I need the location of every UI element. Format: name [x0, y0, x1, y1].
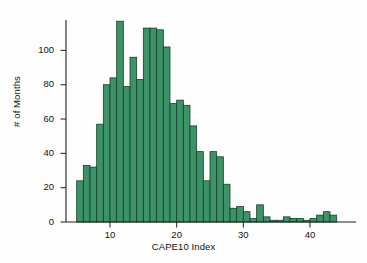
- y-tick-label: 100: [28, 44, 54, 55]
- histogram-bar: [123, 86, 130, 222]
- y-tick-label: 0: [28, 216, 54, 227]
- y-tick-label: 20: [28, 181, 54, 192]
- x-tick-label: 20: [162, 229, 192, 240]
- histogram-bar: [243, 212, 250, 222]
- y-tick-label: 40: [28, 147, 54, 158]
- histogram-bar: [170, 104, 177, 222]
- histogram-bar: [150, 28, 157, 222]
- plot-area: [0, 0, 367, 263]
- histogram-bar: [103, 85, 110, 222]
- histogram-bar: [143, 28, 150, 222]
- histogram-bar: [117, 21, 124, 222]
- histogram-bar: [97, 124, 104, 222]
- histogram-bar: [217, 157, 224, 222]
- histogram-bar: [317, 215, 324, 222]
- histogram-bar: [77, 181, 84, 222]
- y-tick-label: 80: [28, 78, 54, 89]
- histogram-bar: [177, 100, 184, 222]
- histogram-bar: [203, 181, 210, 222]
- x-tick-label: 10: [95, 229, 125, 240]
- histogram-bar: [83, 165, 90, 222]
- histogram-bar: [130, 57, 137, 222]
- histogram-bar: [283, 217, 290, 222]
- histogram-bar: [263, 217, 270, 222]
- histogram-bar: [157, 30, 164, 222]
- bars-group: [77, 21, 337, 222]
- histogram-bar: [230, 208, 237, 222]
- histogram-bar: [197, 152, 204, 222]
- x-tick-label: 30: [228, 229, 258, 240]
- histogram-bar: [90, 167, 97, 222]
- histogram-bar: [183, 105, 190, 222]
- histogram-bar: [223, 184, 230, 222]
- histogram-bar: [323, 212, 330, 222]
- histogram-bar: [110, 78, 117, 222]
- histogram-figure: # of Months CAPE10 Index 020406080100 10…: [0, 0, 367, 263]
- histogram-bar: [137, 80, 144, 222]
- histogram-bar: [163, 47, 170, 222]
- x-tick-label: 40: [295, 229, 325, 240]
- histogram-bar: [237, 207, 244, 222]
- histogram-bar: [190, 126, 197, 222]
- histogram-bar: [257, 205, 264, 222]
- histogram-bar: [210, 152, 217, 222]
- histogram-bar: [330, 215, 337, 222]
- y-tick-label: 60: [28, 113, 54, 124]
